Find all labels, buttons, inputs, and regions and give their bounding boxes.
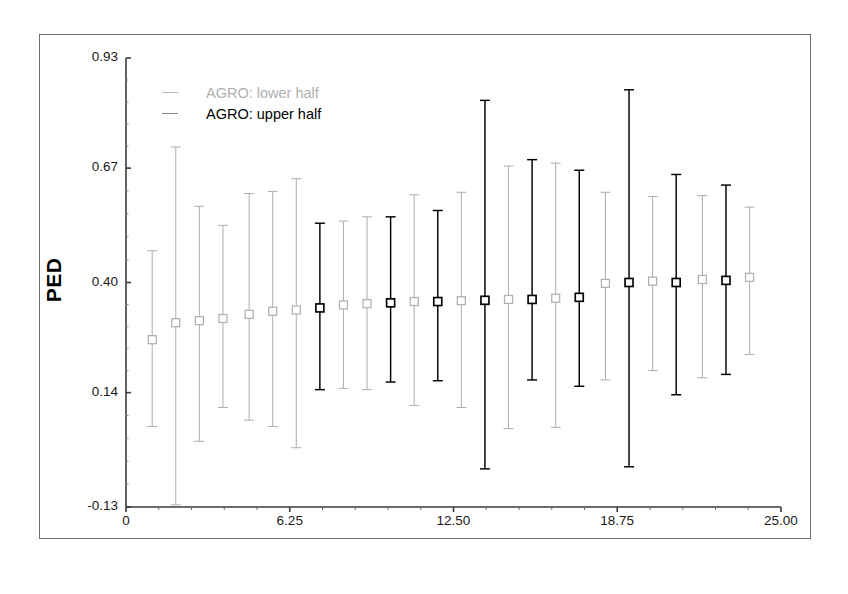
x-tick-label: 18.75 bbox=[582, 513, 652, 528]
legend-label-lower: AGRO: lower half bbox=[206, 85, 319, 101]
legend-item-lower-half: AGRO: lower half bbox=[162, 82, 422, 103]
y-tick-label: 0.93 bbox=[58, 49, 118, 64]
x-tick-label: 12.50 bbox=[419, 513, 489, 528]
legend-item-upper-half: AGRO: upper half bbox=[162, 103, 422, 124]
x-tick-label: 25.00 bbox=[746, 513, 816, 528]
y-tick-label: 0.40 bbox=[58, 274, 118, 289]
legend-swatch-upper-icon bbox=[162, 113, 178, 115]
y-tick-label: 0.67 bbox=[58, 159, 118, 174]
figure-page: PED 0.930.670.400.14-0.13 06.2512.5018.7… bbox=[0, 0, 848, 594]
x-tick-label: 0 bbox=[91, 513, 161, 528]
legend-label-upper: AGRO: upper half bbox=[206, 106, 321, 122]
figure-border bbox=[39, 34, 811, 539]
y-tick-label: 0.14 bbox=[58, 384, 118, 399]
legend: AGRO: lower half AGRO: upper half bbox=[162, 82, 422, 124]
y-tick-label: -0.13 bbox=[58, 498, 118, 513]
legend-swatch-lower-icon bbox=[162, 92, 178, 94]
x-tick-label: 6.25 bbox=[255, 513, 325, 528]
